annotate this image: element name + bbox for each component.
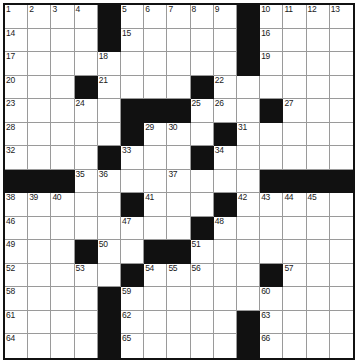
crossword-cell[interactable]: [144, 217, 167, 241]
crossword-cell[interactable]: 53: [75, 264, 98, 288]
crossword-cell[interactable]: [330, 52, 353, 76]
crossword-cell[interactable]: 25: [191, 99, 214, 123]
crossword-cell[interactable]: 9: [214, 5, 237, 29]
crossword-cell[interactable]: [237, 99, 260, 123]
crossword-cell[interactable]: 28: [5, 123, 28, 147]
crossword-cell[interactable]: [98, 99, 121, 123]
crossword-cell[interactable]: [28, 240, 51, 264]
crossword-cell[interactable]: 59: [121, 287, 144, 311]
crossword-cell[interactable]: [307, 311, 330, 335]
crossword-cell[interactable]: [307, 146, 330, 170]
crossword-cell[interactable]: [98, 264, 121, 288]
crossword-cell[interactable]: [191, 311, 214, 335]
crossword-cell[interactable]: [191, 170, 214, 194]
crossword-cell[interactable]: [51, 146, 74, 170]
crossword-cell[interactable]: 11: [283, 5, 306, 29]
crossword-cell[interactable]: [167, 52, 190, 76]
crossword-cell[interactable]: [144, 287, 167, 311]
crossword-cell[interactable]: [191, 193, 214, 217]
crossword-cell[interactable]: [260, 240, 283, 264]
crossword-cell[interactable]: 21: [98, 76, 121, 100]
crossword-cell[interactable]: [28, 99, 51, 123]
crossword-cell[interactable]: [144, 311, 167, 335]
crossword-cell[interactable]: 42: [237, 193, 260, 217]
crossword-cell[interactable]: [283, 240, 306, 264]
crossword-cell[interactable]: 46: [5, 217, 28, 241]
crossword-cell[interactable]: [75, 311, 98, 335]
crossword-cell[interactable]: 63: [260, 311, 283, 335]
crossword-cell[interactable]: [121, 52, 144, 76]
crossword-cell[interactable]: [144, 76, 167, 100]
crossword-cell[interactable]: [51, 52, 74, 76]
crossword-cell[interactable]: 40: [51, 193, 74, 217]
crossword-cell[interactable]: [307, 334, 330, 358]
crossword-cell[interactable]: [214, 29, 237, 53]
crossword-cell[interactable]: 54: [144, 264, 167, 288]
crossword-cell[interactable]: [75, 217, 98, 241]
crossword-cell[interactable]: [283, 76, 306, 100]
crossword-cell[interactable]: [307, 52, 330, 76]
crossword-cell[interactable]: [51, 76, 74, 100]
crossword-cell[interactable]: 50: [98, 240, 121, 264]
crossword-cell[interactable]: [144, 334, 167, 358]
crossword-cell[interactable]: [330, 334, 353, 358]
crossword-cell[interactable]: 31: [237, 123, 260, 147]
crossword-cell[interactable]: [51, 287, 74, 311]
crossword-cell[interactable]: [260, 123, 283, 147]
crossword-cell[interactable]: 14: [5, 29, 28, 53]
crossword-cell[interactable]: 64: [5, 334, 28, 358]
crossword-cell[interactable]: [330, 287, 353, 311]
crossword-cell[interactable]: [330, 264, 353, 288]
crossword-cell[interactable]: 3: [51, 5, 74, 29]
crossword-cell[interactable]: [28, 29, 51, 53]
crossword-cell[interactable]: [191, 123, 214, 147]
crossword-cell[interactable]: 7: [167, 5, 190, 29]
crossword-cell[interactable]: 45: [307, 193, 330, 217]
crossword-cell[interactable]: 33: [121, 146, 144, 170]
crossword-cell[interactable]: [167, 217, 190, 241]
crossword-cell[interactable]: [167, 311, 190, 335]
crossword-cell[interactable]: [191, 287, 214, 311]
crossword-cell[interactable]: 36: [98, 170, 121, 194]
crossword-cell[interactable]: 34: [214, 146, 237, 170]
crossword-cell[interactable]: 51: [191, 240, 214, 264]
crossword-cell[interactable]: [75, 123, 98, 147]
crossword-cell[interactable]: [28, 334, 51, 358]
crossword-cell[interactable]: [167, 146, 190, 170]
crossword-cell[interactable]: [307, 123, 330, 147]
crossword-cell[interactable]: 26: [214, 99, 237, 123]
crossword-cell[interactable]: [330, 99, 353, 123]
crossword-cell[interactable]: 15: [121, 29, 144, 53]
crossword-cell[interactable]: [307, 99, 330, 123]
crossword-cell[interactable]: [214, 52, 237, 76]
crossword-cell[interactable]: 12: [307, 5, 330, 29]
crossword-cell[interactable]: 29: [144, 123, 167, 147]
crossword-cell[interactable]: [214, 311, 237, 335]
crossword-cell[interactable]: 35: [75, 170, 98, 194]
crossword-cell[interactable]: [330, 146, 353, 170]
crossword-cell[interactable]: 52: [5, 264, 28, 288]
crossword-cell[interactable]: [51, 29, 74, 53]
crossword-cell[interactable]: [214, 287, 237, 311]
crossword-cell[interactable]: 41: [144, 193, 167, 217]
crossword-cell[interactable]: [214, 240, 237, 264]
crossword-cell[interactable]: 65: [121, 334, 144, 358]
crossword-cell[interactable]: [237, 240, 260, 264]
crossword-cell[interactable]: 60: [260, 287, 283, 311]
crossword-cell[interactable]: [191, 334, 214, 358]
crossword-cell[interactable]: [51, 334, 74, 358]
crossword-cell[interactable]: 5: [121, 5, 144, 29]
crossword-cell[interactable]: 13: [330, 5, 353, 29]
crossword-cell[interactable]: 22: [214, 76, 237, 100]
crossword-cell[interactable]: [330, 240, 353, 264]
crossword-cell[interactable]: [191, 29, 214, 53]
crossword-cell[interactable]: [167, 334, 190, 358]
crossword-cell[interactable]: 66: [260, 334, 283, 358]
crossword-cell[interactable]: [283, 52, 306, 76]
crossword-cell[interactable]: [51, 264, 74, 288]
crossword-cell[interactable]: [260, 146, 283, 170]
crossword-cell[interactable]: 61: [5, 311, 28, 335]
crossword-cell[interactable]: [167, 29, 190, 53]
crossword-cell[interactable]: [237, 146, 260, 170]
crossword-cell[interactable]: [307, 29, 330, 53]
